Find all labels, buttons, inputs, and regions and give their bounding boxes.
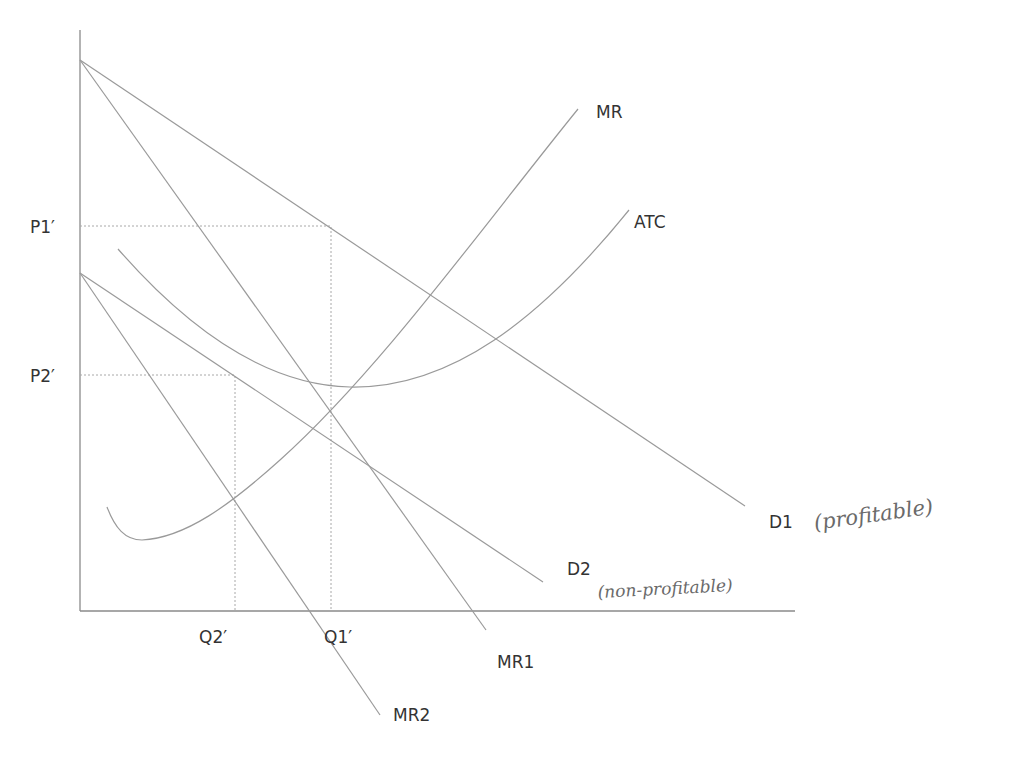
p2-label: P2′ bbox=[30, 366, 55, 386]
d2-demand-curve bbox=[80, 273, 543, 582]
d2-label: D2 bbox=[567, 559, 591, 579]
d2-annotation: (non-profitable) bbox=[597, 575, 733, 602]
q1-label: Q1′ bbox=[324, 627, 352, 647]
q2-label: Q2′ bbox=[199, 627, 227, 647]
mr1-label: MR1 bbox=[497, 652, 534, 672]
p1-label: P1′ bbox=[30, 217, 55, 237]
atc-label: ATC bbox=[634, 212, 666, 232]
mr-label: MR bbox=[596, 102, 623, 122]
d1-demand-curve bbox=[80, 60, 745, 506]
mr2-label: MR2 bbox=[393, 705, 430, 725]
p2-q2-guide-line bbox=[80, 375, 235, 611]
atc-curve bbox=[118, 210, 629, 387]
p1-q1-guide-line bbox=[80, 226, 331, 611]
economics-chart: P1′ P2′ Q2′ Q1′ MR ATC D1 (profitable) D… bbox=[0, 0, 1034, 761]
d1-label: D1 bbox=[769, 512, 793, 532]
mr1-curve bbox=[80, 60, 486, 630]
mr-curve bbox=[107, 109, 578, 540]
mr2-curve bbox=[80, 273, 380, 715]
d1-annotation: (profitable) bbox=[812, 494, 934, 534]
